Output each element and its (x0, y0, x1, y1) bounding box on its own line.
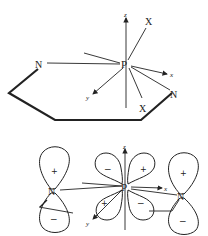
substituent-x-upper: X (145, 16, 153, 27)
phosphazene-diagram: P N N X X z x y P N (0, 0, 208, 236)
sign-p-upper-right: + (140, 165, 147, 174)
bond-back (84, 53, 120, 63)
axis-label-y-bottom: y (85, 220, 90, 228)
atom-p-bottom: P (121, 181, 127, 193)
atom-n-left-bottom: N (48, 186, 55, 197)
atom-n-right-top: N (170, 89, 177, 100)
atom-n-left-top: N (35, 59, 42, 70)
axis-label-x-bottom: x (163, 185, 168, 193)
bond-p-x-upper (128, 28, 146, 60)
sign-p-lower-right: − (137, 198, 145, 208)
top-figure (9, 18, 172, 120)
substituent-x-lower: X (139, 103, 147, 114)
top-labels: P N N X X z x y (35, 11, 177, 114)
sign-right-upper: + (180, 169, 187, 178)
axis-label-y-top: y (85, 94, 90, 102)
sign-p-lower-left: + (101, 199, 108, 208)
bond-n-back-bottom (39, 207, 73, 213)
axis-label-z-bottom: z (122, 143, 126, 151)
bond-n-p-left (47, 63, 120, 64)
atom-p-top: P (121, 58, 127, 70)
atom-n-right-bottom: N (177, 191, 184, 202)
bottom-figure (39, 147, 198, 235)
y-axis (93, 68, 123, 94)
sign-right-lower: − (179, 216, 187, 226)
x-axis-bottom (131, 187, 162, 188)
bond-p-n-bottom-right (131, 189, 177, 195)
bond-back-bottom (82, 183, 122, 186)
axis-label-x-top: x (169, 71, 174, 79)
sign-left-upper: + (51, 167, 58, 176)
sign-left-lower: − (50, 214, 58, 224)
bond-n-p-bottom-left (60, 186, 122, 190)
sign-p-upper-left: − (104, 164, 112, 174)
orbital-lobe-left-lower (40, 193, 70, 233)
axis-label-z-top: z (123, 11, 127, 19)
bond-n-front-bottom (40, 200, 47, 207)
